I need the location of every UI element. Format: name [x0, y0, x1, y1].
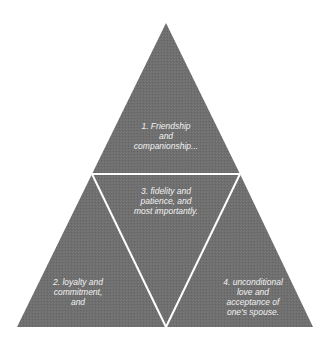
top-section	[92, 23, 240, 174]
label-loyalty: 2. loyalty and commitment, and	[38, 277, 118, 307]
label-unconditional-love: 4. unconditional love and acceptance of …	[208, 277, 298, 317]
label-fidelity: 3. fidelity and patience, and most impor…	[116, 186, 216, 216]
pyramid-diagram: 1. Friendship and companionship... 2. lo…	[0, 0, 328, 345]
label-friendship: 1. Friendship and companionship...	[121, 121, 211, 151]
